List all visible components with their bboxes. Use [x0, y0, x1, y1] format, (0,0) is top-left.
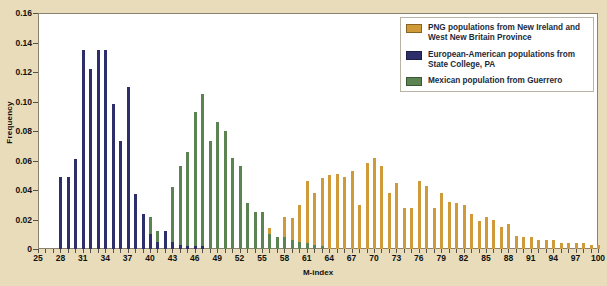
- y-tick-label: 0.12: [0, 68, 32, 77]
- x-tick-mark: [367, 249, 368, 253]
- y-tick-label: 0.16: [0, 9, 32, 18]
- bar: [351, 171, 354, 249]
- x-tick-mark: [210, 249, 211, 253]
- legend-label-png: PNG populations from New Ireland and Wes…: [428, 23, 588, 44]
- bar: [313, 245, 316, 249]
- bar: [425, 186, 428, 249]
- bar: [545, 240, 548, 249]
- bar: [597, 245, 600, 249]
- bar: [455, 203, 458, 249]
- x-tick-mark: [269, 249, 270, 253]
- bar: [201, 246, 204, 249]
- x-tick-mark: [523, 249, 524, 253]
- legend-item-european-american: European-American populations from State…: [406, 50, 588, 71]
- bar: [336, 174, 339, 249]
- x-tick-mark: [98, 249, 99, 253]
- bar: [515, 236, 518, 249]
- x-tick-mark: [471, 249, 472, 253]
- x-tick-mark: [68, 249, 69, 253]
- bar: [433, 208, 436, 249]
- bar: [142, 214, 145, 249]
- bar: [560, 243, 563, 249]
- x-tick-mark: [426, 249, 427, 253]
- x-tick-mark: [381, 249, 382, 253]
- x-tick-mark: [113, 249, 114, 253]
- x-tick-mark: [337, 249, 338, 253]
- bar: [395, 183, 398, 249]
- bar: [254, 212, 257, 249]
- x-tick-label: 55: [250, 254, 274, 263]
- bar: [261, 212, 264, 249]
- bar: [291, 240, 294, 249]
- y-tick-label: 0: [0, 245, 32, 254]
- bar: [306, 181, 309, 249]
- bar: [134, 194, 137, 249]
- x-tick-mark: [143, 249, 144, 253]
- x-tick-label: 97: [564, 254, 588, 263]
- x-tick-mark: [135, 249, 136, 253]
- x-tick-mark: [120, 249, 121, 253]
- y-tick-label: 0.10: [0, 98, 32, 107]
- x-tick-label: 76: [407, 254, 431, 263]
- x-tick-label: 43: [160, 254, 184, 263]
- x-tick-label: 70: [362, 254, 386, 263]
- x-tick-label: 73: [384, 254, 408, 263]
- bar: [97, 50, 100, 249]
- bar: [216, 122, 219, 249]
- y-axis: Frequency 00.020.040.060.080.100.120.140…: [0, 0, 38, 286]
- x-tick-mark: [232, 249, 233, 253]
- bar: [239, 166, 242, 249]
- x-tick-mark: [583, 249, 584, 253]
- bar: [492, 220, 495, 250]
- x-tick-mark: [411, 249, 412, 253]
- x-tick-mark: [314, 249, 315, 253]
- bar: [298, 242, 301, 249]
- bar: [410, 208, 413, 249]
- x-tick-label: 82: [452, 254, 476, 263]
- x-tick-mark: [359, 249, 360, 253]
- legend-swatch-png: [406, 24, 422, 33]
- x-tick-mark: [568, 249, 569, 253]
- x-tick-label: 49: [205, 254, 229, 263]
- y-tick-label: 0.14: [0, 39, 32, 48]
- x-tick-mark: [456, 249, 457, 253]
- bar: [380, 166, 383, 249]
- x-tick-mark: [493, 249, 494, 253]
- bar: [283, 237, 286, 249]
- x-tick-mark: [449, 249, 450, 253]
- x-tick-label: 67: [340, 254, 364, 263]
- bar: [358, 205, 361, 249]
- bar: [403, 208, 406, 249]
- x-tick-mark: [247, 249, 248, 253]
- x-tick-mark: [538, 249, 539, 253]
- y-tick-label: 0.06: [0, 157, 32, 166]
- x-axis-title: M-index: [38, 268, 598, 277]
- x-tick-label: 64: [317, 254, 341, 263]
- x-tick-label: 91: [519, 254, 543, 263]
- bar: [164, 231, 167, 249]
- y-tick-label: 0.02: [0, 216, 32, 225]
- bar: [74, 159, 77, 249]
- legend-label-mexican: Mexican population from Guerrero: [428, 76, 562, 86]
- x-tick-mark: [165, 249, 166, 253]
- x-tick-mark: [516, 249, 517, 253]
- bar: [500, 227, 503, 249]
- bar: [194, 246, 197, 249]
- x-tick-label: 79: [429, 254, 453, 263]
- y-tick-label: 0.08: [0, 127, 32, 136]
- x-tick-mark: [202, 249, 203, 253]
- legend-swatch-european-american: [406, 51, 422, 60]
- chart-legend: PNG populations from New Ireland and Wes…: [400, 17, 594, 92]
- x-tick-mark: [180, 249, 181, 253]
- bar: [231, 158, 234, 249]
- bar: [366, 163, 369, 249]
- x-tick-mark: [546, 249, 547, 253]
- bar: [171, 187, 174, 249]
- x-tick-label: 100: [586, 254, 607, 263]
- x-tick-mark: [255, 249, 256, 253]
- bar: [276, 237, 279, 249]
- bar: [590, 245, 593, 249]
- bar: [321, 178, 324, 249]
- bar: [522, 237, 525, 249]
- x-tick-mark: [157, 249, 158, 253]
